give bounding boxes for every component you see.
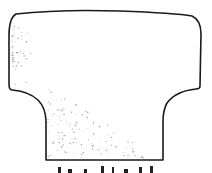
caption-fragment bbox=[58, 166, 153, 173]
stipple-shading bbox=[11, 26, 143, 158]
object-outline bbox=[9, 10, 201, 160]
object-drawing bbox=[0, 0, 212, 173]
